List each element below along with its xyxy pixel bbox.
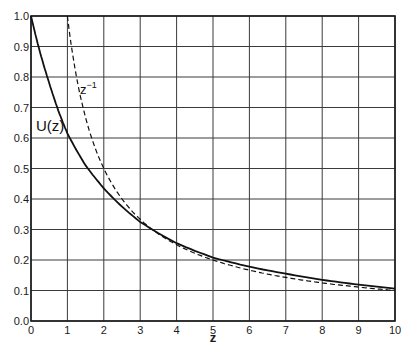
z-inverse-curve-line [67,16,395,291]
y-axis-ticks: 0.00.10.20.30.40.50.60.70.80.91.0 [14,10,29,327]
y-tick-label: 0.9 [14,41,29,53]
x-tick-label: 6 [246,324,252,336]
y-tick-label: 0.6 [14,132,29,144]
y-tick-label: 0.1 [14,285,29,297]
y-tick-label: 0.4 [14,193,29,205]
x-tick-label: 2 [101,324,107,336]
z-inverse-curve-label: z−1 [80,80,97,97]
y-tick-label: 0.0 [14,315,29,327]
y-tick-label: 1.0 [14,10,29,22]
x-tick-label: 10 [389,324,401,336]
y-tick-label: 0.8 [14,71,29,83]
y-tick-label: 0.3 [14,224,29,236]
x-axis-label: z [210,330,217,345]
x-tick-label: 8 [319,324,325,336]
x-tick-label: 4 [174,324,180,336]
x-tick-label: 0 [28,324,34,336]
y-tick-label: 0.7 [14,102,29,114]
grid-lines [31,16,395,321]
z-inverse-exponent: −1 [87,80,97,90]
u-curve-label: U(z) [36,117,64,134]
x-tick-label: 7 [283,324,289,336]
x-tick-label: 9 [356,324,362,336]
chart: 0.00.10.20.30.40.50.60.70.80.91.0 012345… [0,0,410,357]
y-tick-label: 0.2 [14,254,29,266]
y-tick-label: 0.5 [14,163,29,175]
x-tick-label: 1 [64,324,70,336]
x-tick-label: 3 [137,324,143,336]
